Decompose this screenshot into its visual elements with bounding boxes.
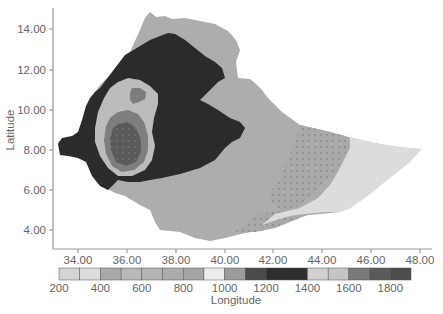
colorbar-segment bbox=[121, 268, 142, 280]
x-tick-label: 48.00 bbox=[406, 254, 435, 266]
colorbar-labels: 20040060080010001200140016001800 bbox=[49, 282, 403, 294]
y-tick-label: 14.00 bbox=[17, 23, 46, 35]
y-ticks: 14.00 12.00 10.00 8.00 6.00 4.00 bbox=[17, 23, 53, 236]
colorbar-segment bbox=[349, 268, 370, 280]
colorbar-segment bbox=[100, 268, 121, 280]
x-axis-title: Longitude bbox=[211, 294, 262, 306]
colorbar-tick-label: 1000 bbox=[212, 282, 238, 294]
colorbar-segment bbox=[142, 268, 163, 280]
colorbar-tick-label: 1400 bbox=[295, 282, 321, 294]
x-tick-label: 46.00 bbox=[357, 254, 386, 266]
y-tick-label: 12.00 bbox=[17, 64, 46, 76]
y-tick-label: 8.00 bbox=[24, 144, 46, 156]
colorbar-segment bbox=[59, 268, 80, 280]
colorbar-segment bbox=[266, 268, 307, 280]
x-tick-label: 44.00 bbox=[308, 254, 337, 266]
colorbar-tick-label: 400 bbox=[91, 282, 110, 294]
y-axis-title: Latitude bbox=[4, 110, 16, 151]
colorbar-segment bbox=[390, 268, 411, 280]
x-tick-label: 42.00 bbox=[259, 254, 288, 266]
colorbar-segment bbox=[204, 268, 225, 280]
map-regions bbox=[58, 12, 422, 241]
colorbar-tick-label: 1600 bbox=[336, 282, 362, 294]
x-tick-label: 40.00 bbox=[211, 254, 240, 266]
colorbar-tick-label: 200 bbox=[49, 282, 68, 294]
colorbar-segments bbox=[59, 268, 411, 280]
x-tick-label: 34.00 bbox=[64, 254, 93, 266]
colorbar-segment bbox=[80, 268, 101, 280]
colorbar-segment bbox=[328, 268, 349, 280]
contour-map-chart: 14.00 12.00 10.00 8.00 6.00 4.00 34.00 3… bbox=[0, 0, 443, 314]
colorbar-tick-label: 600 bbox=[132, 282, 151, 294]
colorbar-segment bbox=[245, 268, 266, 280]
y-tick-label: 6.00 bbox=[24, 184, 46, 196]
colorbar-segment bbox=[307, 268, 328, 280]
x-tick-label: 36.00 bbox=[113, 254, 142, 266]
colorbar-tick-label: 1200 bbox=[253, 282, 279, 294]
colorbar: 20040060080010001200140016001800 Longitu… bbox=[49, 268, 411, 306]
y-tick-label: 10.00 bbox=[17, 104, 46, 116]
colorbar-segment bbox=[183, 268, 204, 280]
colorbar-segment bbox=[370, 268, 391, 280]
y-tick-label: 4.00 bbox=[24, 224, 46, 236]
x-tick-label: 38.00 bbox=[162, 254, 191, 266]
x-ticks: 34.00 36.00 38.00 40.00 42.00 44.00 46.0… bbox=[64, 249, 435, 266]
colorbar-tick-label: 800 bbox=[174, 282, 193, 294]
colorbar-tick-label: 1800 bbox=[377, 282, 403, 294]
colorbar-segment bbox=[225, 268, 246, 280]
colorbar-segment bbox=[163, 268, 184, 280]
